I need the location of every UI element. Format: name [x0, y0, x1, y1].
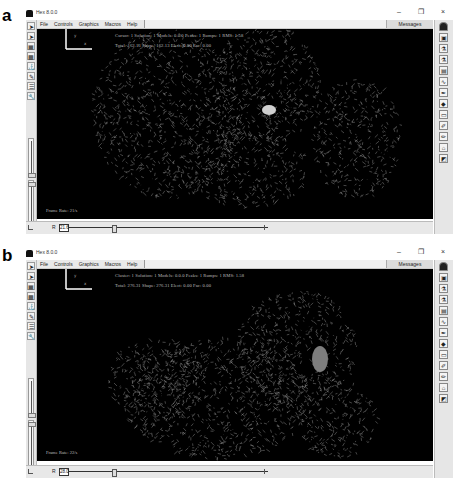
bottom-bar: R 28.0: [26, 465, 433, 478]
messages-button[interactable]: Messages: [386, 20, 433, 28]
status-line-2: Total: 276.31 Shape: 276.31 Elect: 0.00 …: [115, 283, 211, 288]
flask-icon[interactable]: ⚗: [439, 284, 448, 293]
menu-file[interactable]: File: [37, 261, 51, 267]
molecule-viewport[interactable]: y x Cluster: 1 Solution: 1 Models: 0.0.0…: [37, 269, 433, 461]
arrow-pointer-icon[interactable]: ➤: [27, 22, 35, 30]
slider-thumb[interactable]: [28, 413, 36, 418]
palette-icon[interactable]: ◩: [439, 154, 448, 163]
checker-icon[interactable]: ▩: [27, 52, 35, 60]
slider-thumb[interactable]: [28, 182, 36, 187]
wireframe-bonds: [91, 29, 402, 208]
menu-file[interactable]: File: [37, 21, 51, 27]
curve-icon[interactable]: ∿: [439, 317, 448, 326]
image-icon[interactable]: ▣: [439, 273, 448, 282]
flask-alt-icon[interactable]: ⚗: [439, 295, 448, 304]
molecule-viewport[interactable]: y x Cursor: 1 Solution: 1 Models: 0.0.0 …: [37, 29, 433, 219]
window-controls: – ❐ ×: [395, 248, 447, 256]
menu-graphics[interactable]: Graphics: [76, 21, 102, 27]
resize-corner-left: [28, 469, 33, 474]
panel-letter: b: [2, 246, 12, 266]
dock-icon[interactable]: ⚓: [27, 302, 35, 310]
wrench-icon[interactable]: 🔧: [27, 92, 35, 100]
protein-wireframe: [37, 29, 433, 219]
pen-icon[interactable]: ✒: [439, 88, 448, 97]
menu-help[interactable]: Help: [124, 21, 140, 27]
chart-icon[interactable]: ▤: [439, 306, 448, 315]
curve-icon[interactable]: ∿: [439, 77, 448, 86]
menu-graphics[interactable]: Graphics: [76, 261, 102, 267]
palette-icon[interactable]: ◩: [439, 394, 448, 403]
menu-macros[interactable]: Macros: [102, 261, 124, 267]
chart-icon[interactable]: ▤: [439, 66, 448, 75]
layers-icon[interactable]: ☰: [27, 322, 35, 330]
menu-help[interactable]: Help: [124, 261, 140, 267]
rectangle-icon[interactable]: ▭: [439, 350, 448, 359]
minimize-button[interactable]: –: [395, 248, 403, 256]
zoom-slider[interactable]: [28, 378, 34, 418]
r-slider-track: [68, 471, 268, 472]
left-toolbar: ➤➤▦▩⚓✎☰🔧: [26, 20, 37, 234]
paint-icon[interactable]: ✏: [439, 132, 448, 141]
menu-bar: FileControlsGraphicsMacrosHelp: [37, 20, 433, 29]
shape-icon[interactable]: ◆: [439, 99, 448, 108]
menu-controls[interactable]: Controls: [51, 261, 76, 267]
dock-icon[interactable]: ⚓: [27, 62, 35, 70]
right-toolbar: ▣⚗⚗▤∿✒◆▭✐✏⌂◩: [434, 20, 453, 234]
r-label: R: [52, 468, 56, 474]
checker-icon[interactable]: ▩: [27, 292, 35, 300]
slider-track: [31, 423, 32, 465]
svg-text:y: y: [74, 33, 77, 38]
brush-icon[interactable]: ✐: [439, 361, 448, 370]
r-slider[interactable]: [68, 470, 268, 473]
grid-icon[interactable]: ▦: [27, 282, 35, 290]
grid-icon[interactable]: ▦: [27, 42, 35, 50]
maximize-button[interactable]: ❐: [417, 8, 425, 16]
right-toolbar: ▣⚗⚗▤∿✒◆▭✐✏⌂◩: [434, 260, 453, 478]
flask-alt-icon[interactable]: ⚗: [439, 55, 448, 64]
bucket-icon[interactable]: ⌂: [439, 383, 448, 392]
pen-icon[interactable]: ✒: [439, 328, 448, 337]
r-slider-thumb[interactable]: [112, 469, 117, 477]
close-button[interactable]: ×: [439, 248, 447, 256]
messages-button[interactable]: Messages: [386, 260, 433, 268]
arrow-pointer-icon[interactable]: ➤: [27, 262, 35, 270]
brush-icon[interactable]: ✐: [439, 121, 448, 130]
layers-icon[interactable]: ☰: [27, 82, 35, 90]
depth-slider[interactable]: [28, 420, 34, 468]
slider-thumb[interactable]: [28, 422, 36, 427]
person-icon[interactable]: [439, 22, 448, 31]
wrench-icon[interactable]: 🔧: [27, 332, 35, 340]
panel-a: a Hex 8.0.0 – ❐ × ➤➤▦▩⚓✎☰🔧 FileControlsG…: [0, 0, 453, 240]
slider-thumb[interactable]: [28, 173, 36, 178]
maximize-button[interactable]: ❐: [417, 248, 425, 256]
wireframe-bonds: [109, 291, 381, 460]
svg-text:y: y: [74, 273, 77, 278]
pencil-icon[interactable]: ✎: [27, 72, 35, 80]
close-button[interactable]: ×: [439, 8, 447, 16]
pencil-icon[interactable]: ✎: [27, 312, 35, 320]
paint-icon[interactable]: ✏: [439, 372, 448, 381]
frame-rate-label: Frame Rate: 22/s: [46, 450, 77, 455]
menu-controls[interactable]: Controls: [51, 21, 76, 27]
arrow-pointer-alt-icon[interactable]: ➤: [27, 32, 35, 40]
app-window: ➤➤▦▩⚓✎☰🔧 FileControlsGraphicsMacrosHelp …: [26, 20, 453, 234]
axes-indicator: y x: [62, 269, 94, 293]
bucket-icon[interactable]: ⌂: [439, 143, 448, 152]
app-icon: [26, 250, 33, 257]
protein-wireframe: [37, 269, 433, 461]
person-icon[interactable]: [439, 262, 448, 271]
shape-icon[interactable]: ◆: [439, 339, 448, 348]
flask-icon[interactable]: ⚗: [439, 44, 448, 53]
window-title: Hex 8.0.0: [36, 9, 57, 15]
left-toolbar: ➤➤▦▩⚓✎☰🔧: [26, 260, 37, 478]
zoom-slider[interactable]: [28, 138, 34, 178]
rectangle-icon[interactable]: ▭: [439, 110, 448, 119]
r-slider-thumb[interactable]: [112, 225, 117, 233]
r-slider[interactable]: [68, 226, 268, 229]
app-icon: [26, 10, 33, 17]
arrow-pointer-alt-icon[interactable]: ➤: [27, 272, 35, 280]
minimize-button[interactable]: –: [395, 8, 403, 16]
image-icon[interactable]: ▣: [439, 33, 448, 42]
window-controls: – ❐ ×: [395, 8, 447, 16]
menu-macros[interactable]: Macros: [102, 21, 124, 27]
